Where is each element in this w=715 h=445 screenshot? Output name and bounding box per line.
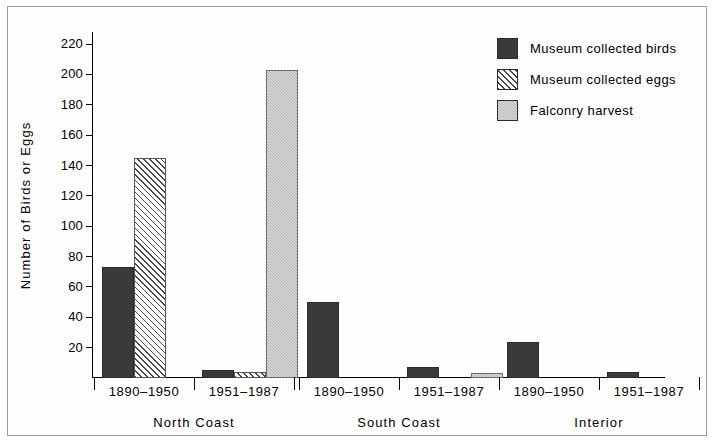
y-axis-tick-label: 60: [68, 278, 83, 295]
legend-item: Museum collected eggs: [497, 64, 676, 95]
legend-label: Falconry harvest: [530, 102, 633, 119]
y-axis-tick-mark: [86, 195, 92, 196]
y-axis-tick-label: 160: [61, 126, 83, 143]
legend-swatch: [497, 69, 518, 90]
x-axis-category-label: 1890–1950: [499, 383, 599, 400]
y-axis-tick-mark: [86, 165, 92, 166]
x-axis-tick-mark: [294, 377, 295, 390]
legend-item: Museum collected birds: [497, 33, 676, 64]
y-axis-tick-mark: [86, 317, 92, 318]
y-axis-tick-mark: [86, 74, 92, 75]
legend-swatch: [497, 38, 518, 59]
chart-legend: Museum collected birdsMuseum collected e…: [497, 33, 676, 126]
bar: [234, 372, 266, 378]
y-axis-tick-mark: [86, 44, 92, 45]
x-axis-category-label: 1890–1950: [299, 383, 399, 400]
y-axis-tick-label: 100: [61, 217, 83, 234]
bar: [607, 372, 639, 378]
y-axis-tick-label: 20: [68, 339, 83, 356]
x-axis-category-label: 1951–1987: [194, 383, 294, 400]
chart-figure: Number of Birds or Eggs 2040608010012014…: [0, 0, 715, 445]
y-axis-tick-mark: [86, 256, 92, 257]
y-axis-tick-label: 40: [68, 308, 83, 325]
y-axis-title-text: Number of Birds or Eggs: [19, 121, 34, 289]
bar: [202, 370, 234, 378]
y-axis-tick-mark: [86, 347, 92, 348]
bar: [266, 70, 298, 378]
x-axis-category-label: 1890–1950: [94, 383, 194, 400]
bar: [134, 158, 166, 378]
x-axis-group-label: South Coast: [299, 414, 499, 431]
y-axis-tick-label: 220: [61, 35, 83, 52]
y-axis-tick-label: 180: [61, 96, 83, 113]
x-axis-category-label: 1951–1987: [399, 383, 499, 400]
y-axis-tick-mark: [86, 286, 92, 287]
y-axis-tick-mark: [86, 135, 92, 136]
y-axis-tick-mark: [86, 104, 92, 105]
legend-item: Falconry harvest: [497, 95, 676, 126]
x-axis-category-label: 1951–1987: [599, 383, 699, 400]
legend-label: Museum collected birds: [530, 40, 676, 57]
bar: [102, 267, 134, 378]
x-axis-tick-mark: [699, 377, 700, 390]
x-axis-group-label: Interior: [499, 414, 699, 431]
y-axis-tick-label: 140: [61, 157, 83, 174]
y-axis-tick-label: 120: [61, 187, 83, 204]
y-axis-title: Number of Birds or Eggs: [16, 32, 36, 378]
y-axis-tick-mark: [86, 226, 92, 227]
bar: [307, 302, 339, 378]
legend-swatch: [497, 100, 518, 121]
bar: [407, 367, 439, 378]
bar: [507, 342, 539, 378]
legend-label: Museum collected eggs: [530, 71, 676, 88]
y-axis-tick-label: 80: [68, 248, 83, 265]
x-axis-group-label: North Coast: [94, 414, 294, 431]
y-axis-tick-label: 200: [61, 65, 83, 82]
